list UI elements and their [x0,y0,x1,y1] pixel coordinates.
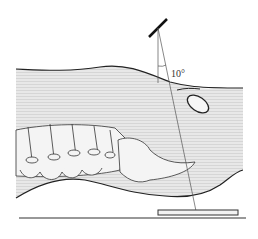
angle-arc [158,65,166,66]
angle-label: 10° [171,68,185,79]
image-receptor [158,210,238,215]
radiography-diagram [0,0,258,239]
